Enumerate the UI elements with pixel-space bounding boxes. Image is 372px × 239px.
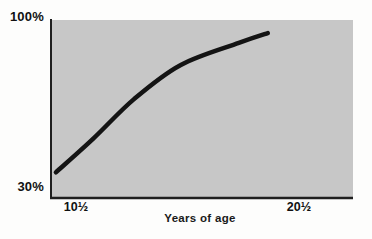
- x-axis-label-20-half: 20½: [277, 200, 321, 214]
- x-axis-title: Years of age: [136, 212, 264, 224]
- plot-area: [51, 20, 353, 198]
- x-axis-label-10-half: 10½: [54, 200, 98, 214]
- y-axis-label-30: 30%: [0, 179, 44, 194]
- chart-figure: 100% 30% 10½ 20½ Years of age: [0, 0, 372, 239]
- y-axis-label-100: 100%: [0, 9, 44, 24]
